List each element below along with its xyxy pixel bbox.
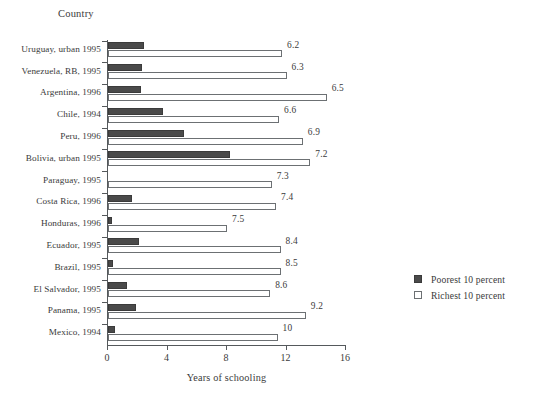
- x-axis-title: Years of schooling: [107, 372, 346, 383]
- bar-poorest: [108, 195, 132, 202]
- bar-poorest: [108, 217, 112, 224]
- bar-value-label: 6.5: [332, 83, 344, 93]
- bar-poorest: [108, 151, 230, 158]
- chart-container: Country Uruguay, urban 19956.2Venezuela,…: [0, 0, 535, 403]
- bar-poorest: [108, 326, 115, 333]
- x-axis-tick: [167, 345, 168, 350]
- x-axis-tick: [107, 345, 108, 350]
- bar-poorest: [108, 108, 163, 115]
- bar-value-label: 8.4: [286, 236, 298, 246]
- bar-richest: [108, 181, 272, 188]
- y-axis-tick: [102, 280, 107, 281]
- y-axis-tick: [102, 237, 107, 238]
- y-axis-category-label: Costa Rica, 1996: [36, 196, 101, 206]
- bar-poorest: [108, 282, 127, 289]
- bar-richest: [108, 203, 276, 210]
- bar-value-label: 8.5: [286, 258, 298, 268]
- bar-richest: [108, 268, 281, 275]
- y-axis-tick: [102, 149, 107, 150]
- y-axis-tick: [102, 324, 107, 325]
- legend-item-poorest[interactable]: Poorest 10 percent: [414, 271, 505, 287]
- y-axis-category-label: Peru, 1996: [60, 131, 101, 141]
- y-axis-tick: [102, 84, 107, 85]
- bar-value-label: 9.2: [311, 301, 323, 311]
- y-axis-tick: [102, 258, 107, 259]
- y-axis-category-label: Argentina, 1996: [40, 87, 101, 97]
- y-axis-tick: [102, 128, 107, 129]
- y-axis-tick: [102, 171, 107, 172]
- y-axis-category-label: Panama, 1995: [48, 305, 101, 315]
- y-axis-category-label: Brazil, 1995: [54, 262, 101, 272]
- bar-richest: [108, 225, 227, 232]
- bar-poorest: [108, 86, 141, 93]
- bar-richest: [108, 290, 270, 297]
- y-axis-category-label: Chile, 1994: [57, 109, 101, 119]
- x-axis-tick-label: 0: [105, 352, 110, 363]
- y-axis-category-label: Honduras, 1996: [41, 218, 101, 228]
- bar-poorest: [108, 42, 144, 49]
- y-axis-tick: [102, 193, 107, 194]
- x-axis-tick-label: 4: [164, 352, 169, 363]
- bar-poorest: [108, 304, 136, 311]
- y-axis-category-label: Venezuela, RB, 1995: [22, 66, 101, 76]
- bar-value-label: 6.6: [284, 105, 296, 115]
- y-axis-tick: [102, 106, 107, 107]
- y-axis-category-label: El Salvador, 1995: [34, 284, 101, 294]
- bar-poorest: [108, 260, 113, 267]
- bar-richest: [108, 50, 282, 57]
- bar-richest: [108, 138, 303, 145]
- y-axis-tick: [102, 62, 107, 63]
- bar-richest: [108, 116, 279, 123]
- y-axis-category-label: Bolivia, urban 1995: [26, 153, 101, 163]
- bar-richest: [108, 94, 327, 101]
- legend-label-richest: Richest 10 percent: [431, 290, 505, 301]
- bar-value-label: 6.9: [308, 127, 320, 137]
- x-axis-tick-label: 12: [281, 352, 291, 363]
- bar-value-label: 7.4: [281, 192, 293, 202]
- legend-label-poorest: Poorest 10 percent: [431, 274, 505, 285]
- legend-swatch-poorest-icon: [414, 275, 422, 283]
- bar-poorest: [108, 64, 142, 71]
- y-axis-category-label: Ecuador, 1995: [46, 240, 101, 250]
- legend: Poorest 10 percent Richest 10 percent: [414, 271, 505, 303]
- bar-value-label: 10: [283, 323, 293, 333]
- bar-value-label: 8.6: [275, 280, 287, 290]
- x-axis-tick: [226, 345, 227, 350]
- y-axis-tick: [102, 215, 107, 216]
- legend-item-richest[interactable]: Richest 10 percent: [414, 287, 505, 303]
- y-axis-category-label: Uruguay, urban 1995: [21, 44, 101, 54]
- bar-value-label: 7.2: [315, 149, 327, 159]
- bar-richest: [108, 334, 278, 341]
- bar-richest: [108, 246, 281, 253]
- x-axis-tick-label: 16: [340, 352, 350, 363]
- x-axis-tick-label: 8: [224, 352, 229, 363]
- y-axis-tick: [102, 41, 107, 42]
- bar-poorest: [108, 238, 139, 245]
- bar-richest: [108, 312, 306, 319]
- y-axis-category-label: Paraguay, 1995: [43, 175, 101, 185]
- bar-value-label: 7.5: [232, 214, 244, 224]
- bar-value-label: 6.3: [292, 62, 304, 72]
- x-axis-tick: [345, 345, 346, 350]
- y-axis-tick: [102, 302, 107, 303]
- bar-richest: [108, 72, 287, 79]
- x-axis-tick: [286, 345, 287, 350]
- y-axis-title: Country: [58, 8, 94, 19]
- bar-value-label: 6.2: [287, 40, 299, 50]
- y-axis-category-label: Mexico, 1994: [49, 327, 101, 337]
- bar-poorest: [108, 130, 184, 137]
- bar-richest: [108, 159, 310, 166]
- legend-swatch-richest-icon: [414, 291, 422, 299]
- bar-value-label: 7.3: [277, 171, 289, 181]
